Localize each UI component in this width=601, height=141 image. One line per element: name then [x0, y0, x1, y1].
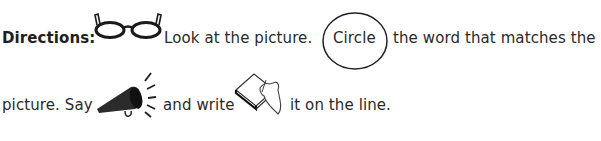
directions-label: Directions: — [2, 29, 95, 47]
instruction-look-at-picture: Look at the picture. — [164, 29, 312, 47]
instruction-on-the-line: it on the line. — [290, 96, 391, 114]
circled-word-example: Circle — [333, 29, 376, 47]
hand-writing-book-icon — [234, 72, 286, 118]
instruction-and-write: and write — [163, 96, 235, 114]
instruction-word-matches: the word that matches the — [393, 29, 596, 47]
megaphone-icon — [95, 71, 157, 119]
glasses-icon — [91, 11, 165, 41]
instruction-picture-say: picture. Say — [2, 96, 93, 114]
